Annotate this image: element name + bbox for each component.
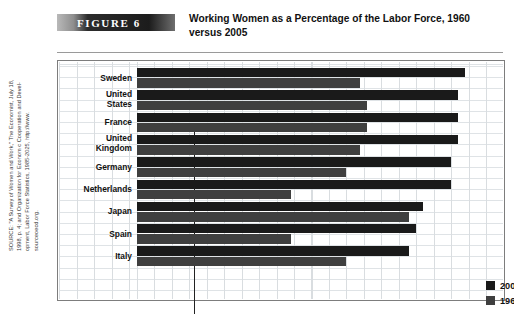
figure-title: Working Women as a Percentage of the Lab… [189,12,499,39]
bar-1960 [137,78,360,87]
legend-swatch-icon [486,296,495,305]
category-label: Spain [0,230,132,240]
category-label: Netherlands [0,185,132,195]
bar-1960 [137,190,291,199]
legend-item: 1960 [486,294,514,307]
bar-1960 [137,234,291,243]
bar-group-row: Sweden [137,68,486,90]
bar-group-row: United States [137,90,486,112]
chart-frame: SwedenUnited StatesFranceUnited KingdomG… [57,60,505,301]
legend-label: 2005 [500,281,514,291]
plot-area: SwedenUnited StatesFranceUnited KingdomG… [137,68,486,271]
bar-group-row: Japan [137,202,486,224]
bar-2005 [137,68,465,77]
bar-2005 [137,90,458,99]
figure-container: SOURCE: "A Survey of Women and Work," Th… [0,0,514,314]
legend-label: 1960 [500,296,514,306]
category-label: United Kingdom [0,134,132,154]
category-label: Sweden [0,74,132,84]
category-label: Italy [0,252,132,262]
bar-1960 [137,257,346,266]
category-label: Japan [0,207,132,217]
bar-group-row: Germany [137,157,486,179]
bar-group-row: United Kingdom [137,135,486,157]
bar-2005 [137,180,451,189]
bar-1960 [137,168,346,177]
figure-number-label: FIGURE 6 [77,17,141,29]
chart-legend: 20051960 [486,279,514,311]
bar-2005 [137,113,458,122]
category-label: Germany [0,163,132,173]
bar-2005 [137,224,416,233]
bar-1960 [137,212,409,221]
legend-item: 2005 [486,279,514,292]
bar-2005 [137,135,458,144]
bar-2005 [137,246,409,255]
legend-swatch-icon [486,281,495,290]
bar-group-row: Italy [137,246,486,268]
bar-1960 [137,101,367,110]
bar-group-row: Netherlands [137,180,486,202]
figure-number-badge: FIGURE 6 [57,14,175,31]
bar-1960 [137,123,367,132]
bar-2005 [137,157,451,166]
bar-group-row: France [137,113,486,135]
bar-2005 [137,202,423,211]
category-label: France [0,118,132,128]
header-divider [57,52,503,53]
category-label: United States [0,90,132,110]
figure-header: FIGURE 6 Working Women as a Percentage o… [57,12,503,54]
bar-group-row: Spain [137,224,486,246]
bar-1960 [137,145,360,154]
